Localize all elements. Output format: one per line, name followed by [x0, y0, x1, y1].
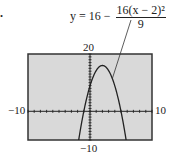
graph [0, 0, 174, 155]
